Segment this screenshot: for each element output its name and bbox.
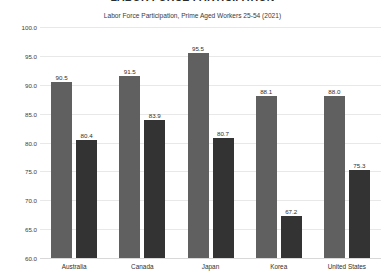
bar	[144, 120, 165, 258]
gridline	[40, 85, 381, 86]
bar	[76, 140, 97, 258]
bar-value-label: 80.7	[217, 130, 229, 137]
bar	[188, 53, 209, 258]
y-axis: 100.095.090.085.080.075.070.065.060.0	[0, 27, 37, 258]
y-axis-tick-label: 60.0	[3, 255, 37, 262]
gridline	[40, 27, 381, 28]
bar-value-label: 88.0	[328, 88, 340, 95]
y-axis-tick-label: 75.0	[3, 168, 37, 175]
x-axis-category-label: Korea	[270, 263, 287, 270]
bar-value-label: 88.1	[260, 88, 272, 95]
bar	[119, 76, 140, 258]
bar-value-label: 80.4	[81, 132, 93, 139]
y-axis-tick-label: 85.0	[3, 110, 37, 117]
gridline	[40, 56, 381, 57]
bar-value-label: 83.9	[149, 112, 161, 119]
y-axis-tick-label: 65.0	[3, 226, 37, 233]
chart-subtitle: Labor Force Participation, Prime Aged Wo…	[0, 12, 385, 19]
bar	[349, 170, 370, 258]
bar-value-label: 75.3	[353, 162, 365, 169]
y-axis-tick-label: 90.0	[3, 81, 37, 88]
bar	[281, 216, 302, 258]
x-axis-category-label: United States	[328, 263, 366, 270]
x-axis-category-label: Japan	[202, 263, 219, 270]
y-axis-tick-label: 70.0	[3, 197, 37, 204]
bar-value-label: 67.2	[285, 208, 297, 215]
bar	[324, 96, 345, 258]
bar-value-label: 91.5	[124, 68, 136, 75]
bar	[51, 82, 72, 258]
gridline	[40, 258, 381, 259]
y-axis-tick-label: 80.0	[3, 139, 37, 146]
bar	[213, 138, 234, 258]
plot-area	[40, 27, 381, 258]
x-axis-category-label: Canada	[131, 263, 153, 270]
bar-chart: LABOR FORCE PARTICIPATION Labor Force Pa…	[0, 0, 385, 276]
bar-value-label: 90.5	[56, 74, 68, 81]
bar	[256, 96, 277, 258]
bar-value-label: 95.5	[192, 45, 204, 52]
y-axis-tick-label: 95.0	[3, 52, 37, 59]
chart-title: LABOR FORCE PARTICIPATION	[0, 0, 385, 3]
y-axis-tick-label: 100.0	[3, 24, 37, 31]
x-axis-category-label: Australia	[62, 263, 87, 270]
